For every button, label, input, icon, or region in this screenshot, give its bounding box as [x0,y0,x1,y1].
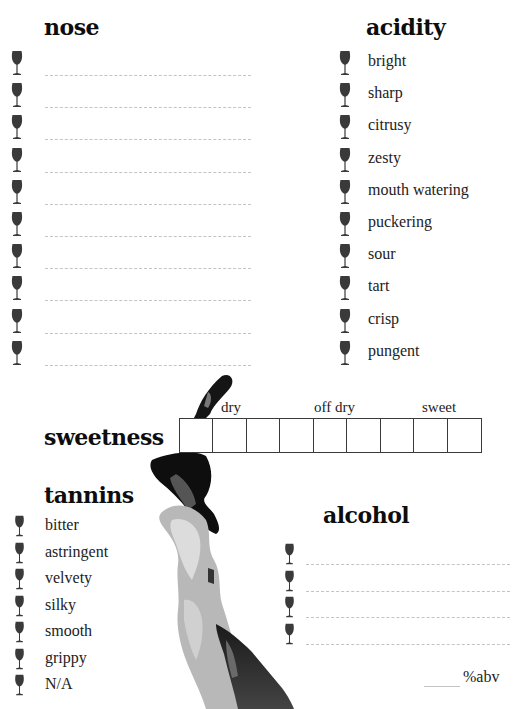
wine-glass-icon [339,243,351,269]
wine-glass-icon [14,568,25,590]
scale-label-off-dry: off dry [314,399,355,416]
wine-glass-icon [11,211,23,237]
alcohol-note-line[interactable] [306,564,510,565]
scale-label-sweet: sweet [422,399,456,416]
tannin-option: grippy [45,649,87,667]
acidity-option: crisp [368,310,399,328]
wine-glass-icon [11,243,23,269]
sweetness-box[interactable] [380,418,415,453]
tannin-option: bitter [45,516,79,534]
alcohol-note-line[interactable] [306,644,510,645]
wine-glass-icon [14,595,25,617]
tannin-option: velvety [45,569,92,587]
wine-glass-icon [11,50,23,76]
wine-glass-icon [339,308,351,334]
sweetness-heading: sweetness [44,424,164,450]
wine-glass-icon [284,543,295,565]
nose-note-line[interactable] [45,139,251,140]
wine-glass-icon [11,114,23,140]
wine-glass-icon [14,648,25,670]
nose-note-line[interactable] [45,107,251,108]
wine-glass-icon [11,82,23,108]
wine-glass-icon [339,275,351,301]
wine-glass-icon [284,596,295,618]
abv-label: %abv [463,668,499,686]
wine-glass-icon [11,340,23,366]
wine-glass-icon [339,340,351,366]
sweetness-box[interactable] [246,418,281,453]
alcohol-note-line[interactable] [306,617,510,618]
wine-glass-icon [339,211,351,237]
wine-glass-icon [339,82,351,108]
wine-glass-icon [339,50,351,76]
sweetness-box[interactable] [346,418,381,453]
nose-note-line[interactable] [45,268,251,269]
acidity-option: puckering [368,213,432,231]
nose-heading: nose [44,14,99,40]
tannins-heading: tannins [44,482,134,508]
nose-note-line[interactable] [45,172,251,173]
wine-glass-icon [14,621,25,643]
wine-glass-icon [14,674,25,696]
sweetness-box[interactable] [179,418,214,453]
sweetness-box[interactable] [212,418,247,453]
alcohol-note-line[interactable] [306,591,510,592]
nose-note-line[interactable] [45,365,251,366]
sweetness-box[interactable] [313,418,348,453]
sweetness-box[interactable] [413,418,448,453]
wine-glass-icon [11,308,23,334]
wine-glass-icon [284,570,295,592]
alcohol-heading: alcohol [323,502,409,528]
wine-glass-icon [284,623,295,645]
acidity-option: tart [368,277,389,295]
wine-glass-icon [339,114,351,140]
nose-note-line[interactable] [45,75,251,76]
acidity-option: bright [368,52,406,70]
wine-glass-icon [11,147,23,173]
acidity-heading: acidity [366,14,445,40]
wine-glass-icon [339,179,351,205]
wine-glass-icon [11,179,23,205]
acidity-option: mouth watering [368,181,469,199]
acidity-option: sharp [368,84,403,102]
sweetness-scale [180,418,482,453]
sweetness-box[interactable] [447,418,482,453]
acidity-option: sour [368,245,396,263]
nose-note-line[interactable] [45,300,251,301]
tannin-option: astringent [45,543,108,561]
acidity-option: zesty [368,149,401,167]
abv-input-line[interactable] [424,686,460,687]
scale-label-dry: dry [221,399,241,416]
sweetness-box[interactable] [279,418,314,453]
tannin-option: N/A [45,675,73,693]
wine-glass-icon [14,515,25,537]
acidity-option: citrusy [368,116,412,134]
wine-glass-icon [11,275,23,301]
wine-glass-icon [14,542,25,564]
nose-note-line[interactable] [45,236,251,237]
tannin-option: smooth [45,622,92,640]
nose-note-line[interactable] [45,333,251,334]
tannin-option: silky [45,596,76,614]
acidity-option: pungent [368,342,420,360]
nose-note-line[interactable] [45,204,251,205]
wine-glass-icon [339,147,351,173]
